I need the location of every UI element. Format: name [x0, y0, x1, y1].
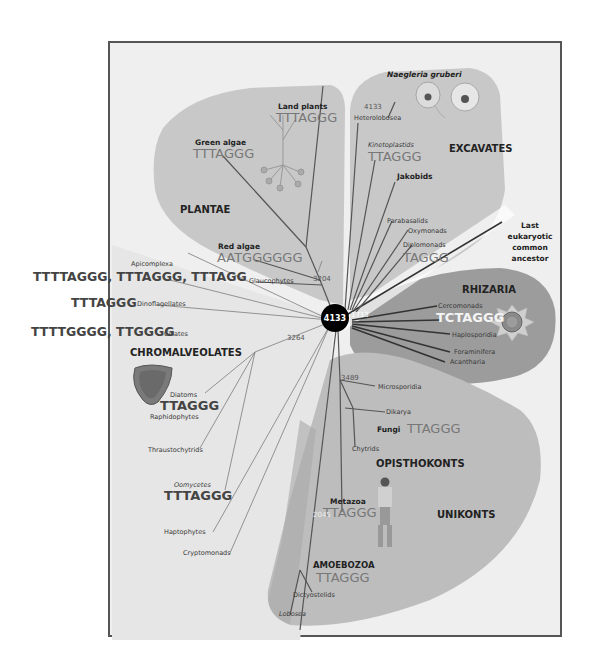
chytrids-label: Chytrids	[352, 445, 380, 453]
land-plants-sequence: TTTAGGG	[275, 110, 337, 125]
apicomplexa-sequence: TTTTAGGG, TTTAGGG, TTTAGG	[33, 269, 247, 284]
raphidophytes-label: Raphidophytes	[150, 413, 199, 421]
microsporidia-label: Microsporidia	[378, 383, 421, 391]
svg-text:ancestor: ancestor	[512, 254, 549, 263]
apicomplexa-label: Apicomplexa	[131, 260, 173, 268]
amoebozoa-clade-label: AMOEBOZOA	[313, 560, 375, 570]
cercomonads-sequence: TCTAGGG	[436, 310, 504, 325]
heterolobosea-label: Heterolobosea	[354, 114, 401, 122]
svg-text:common: common	[512, 243, 548, 252]
foraminifera-label: Foraminifera	[454, 348, 495, 356]
phylogeny-diagram: 4133 PLANTAE Land plants TTTAGGG Green a…	[0, 0, 594, 671]
dinoflagellates-label: Dinoflagellates	[137, 300, 186, 308]
diatoms-sequence: TTAGGG	[160, 398, 219, 413]
oomycetes-sequence: TTTAGGG	[164, 488, 232, 503]
unikonts-clade-label: UNIKONTS	[437, 509, 495, 520]
leca-label: Last eukaryotic common ancestor	[508, 221, 553, 263]
lobosea-label: Lobosea	[279, 610, 306, 618]
haptophytes-label: Haptophytes	[164, 528, 206, 536]
rhizaria-clade-label: RHIZARIA	[462, 284, 516, 295]
glaucophytes-label: Glaucophytes	[249, 277, 294, 285]
center-node-label: 4133	[324, 314, 346, 323]
green-algae-sequence: TTTAGGG	[192, 146, 254, 161]
telomere-phylogeny-figure: 4133 PLANTAE Land plants TTTAGGG Green a…	[0, 0, 594, 671]
naegleria-number: 4133	[364, 103, 382, 111]
opisthokonts-clade-label: OPISTHOKONTS	[376, 458, 465, 469]
oxymonads-label: Oxymonads	[408, 227, 447, 235]
metazoa-node-number: 2045	[313, 511, 331, 519]
thraustochytrids-label: Thraustochytrids	[147, 446, 203, 454]
cercomonads-label: Cercomonads	[438, 302, 483, 310]
chromalveolates-node-number: 3264	[287, 334, 305, 342]
plantae-node-number: 3204	[313, 275, 331, 283]
fungi-sequence: TTAGGG	[406, 421, 461, 436]
svg-text:eukaryotic: eukaryotic	[508, 232, 553, 241]
plantae-clade-label: PLANTAE	[180, 204, 231, 215]
parabasalids-label: Parabasalids	[387, 217, 428, 225]
svg-text:Last: Last	[521, 221, 539, 230]
kinetoplastids-sequence: TTAGGG	[367, 149, 422, 164]
chromalveolates-clade-label: CHROMALVEOLATES	[130, 347, 242, 358]
excavates-node-number: 1713	[351, 311, 369, 319]
opisthokonts-node-number: 3489	[341, 374, 359, 382]
naegleria-label: Naegleria gruberi	[387, 70, 462, 79]
diplomonads-label: Diplomonads	[403, 241, 446, 249]
excavates-clade-label: EXCAVATES	[449, 143, 512, 154]
ciliates-sequence: TTTTGGGG, TTGGGG	[31, 324, 175, 339]
amoebozoa-sequence: TTAGGG	[315, 570, 370, 585]
dikarya-label: Dikarya	[386, 408, 411, 416]
jakobids-label: Jakobids	[396, 172, 433, 181]
cryptomonads-label: Cryptomonads	[183, 549, 231, 557]
kinetoplastids-label: Kinetoplastids	[368, 141, 414, 149]
red-algae-sequence: AATGGGGGG	[217, 250, 303, 265]
dinoflagellates-sequence: TTTAGGG	[71, 295, 137, 310]
dictyostelids-label: Dictyostelids	[293, 591, 335, 599]
haplosporidia-label: Haplosporidia	[452, 331, 497, 339]
diplomonads-sequence: TAGGG	[402, 250, 449, 265]
fungi-label: Fungi	[377, 425, 400, 434]
acantharia-label: Acantharia	[450, 358, 485, 366]
